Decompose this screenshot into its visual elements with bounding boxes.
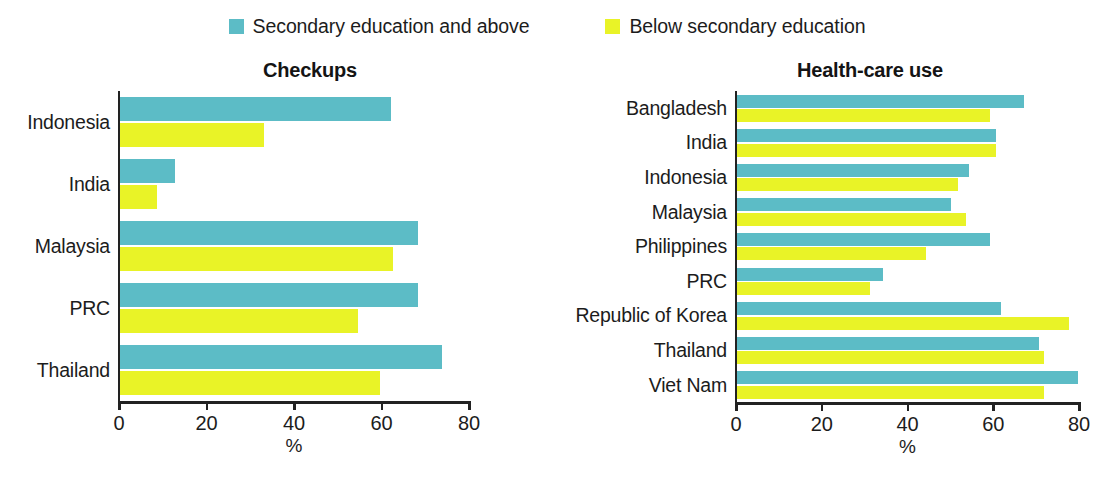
x-axis-tick: [1078, 402, 1081, 411]
bar-group: [737, 129, 1080, 157]
bar-secondary-and-above: [737, 95, 1024, 108]
chart-title-checkups: Checkups: [100, 55, 520, 85]
x-axis-tick: [468, 401, 471, 410]
bar-row: PRC: [737, 264, 1080, 299]
bar-below-secondary: [737, 213, 966, 226]
bar-rows: BangladeshIndiaIndonesiaMalaysiaPhilippi…: [735, 91, 1080, 402]
category-label: Thailand: [0, 359, 110, 382]
x-axis-tick: [206, 401, 209, 410]
bar-row: PRC: [120, 277, 470, 339]
x-axis-tick: [907, 402, 910, 411]
bar-below-secondary: [737, 282, 870, 295]
category-label: Philippines: [552, 235, 727, 258]
x-axis-tick-label: 40: [896, 413, 918, 436]
plot-area-healthcare: BangladeshIndiaIndonesiaMalaysiaPhilippi…: [560, 91, 1094, 436]
x-axis-unit-label: %: [899, 436, 916, 458]
bar-secondary-and-above: [120, 283, 418, 307]
x-axis-tick: [992, 402, 995, 411]
x-axis: 020406080%: [735, 402, 1078, 436]
bar-row: Indonesia: [737, 160, 1080, 195]
x-axis-tick: [118, 401, 121, 410]
bar-group: [737, 371, 1080, 399]
category-label: Indonesia: [0, 111, 110, 134]
legend-entry-secondary-and-above: Secondary education and above: [229, 15, 530, 38]
bar-secondary-and-above: [737, 129, 996, 142]
bar-row: Bangladesh: [737, 91, 1080, 126]
category-label: Bangladesh: [552, 97, 727, 120]
bar-row: Thailand: [120, 339, 470, 401]
bar-below-secondary: [120, 123, 264, 147]
x-axis-tick: [381, 401, 384, 410]
bar-group: [120, 345, 470, 395]
x-axis-tick: [821, 402, 824, 411]
chart-title-healthcare: Health-care use: [660, 55, 1080, 85]
bar-row: India: [737, 126, 1080, 161]
bar-row: Indonesia: [120, 91, 470, 153]
bar-group: [120, 221, 470, 271]
chart-panel-checkups: Checkups IndonesiaIndiaMalaysiaPRCThaila…: [0, 55, 520, 435]
bar-secondary-and-above: [120, 221, 418, 245]
x-axis-tick: [735, 402, 738, 411]
x-axis-tick-label: 60: [982, 413, 1004, 436]
category-label: Indonesia: [552, 166, 727, 189]
category-label: Viet Nam: [552, 374, 727, 397]
bar-below-secondary: [120, 247, 393, 271]
category-label: Republic of Korea: [552, 304, 727, 327]
bar-secondary-and-above: [737, 337, 1039, 350]
category-label: India: [552, 131, 727, 154]
bar-group: [120, 97, 470, 147]
bar-row: Philippines: [737, 229, 1080, 264]
bar-row: Malaysia: [737, 195, 1080, 230]
category-label: PRC: [552, 270, 727, 293]
bar-group: [737, 302, 1080, 330]
bar-secondary-and-above: [737, 268, 883, 281]
legend-entry-below-secondary: Below secondary education: [605, 15, 865, 38]
bar-below-secondary: [737, 178, 958, 191]
category-label: India: [0, 173, 110, 196]
x-axis-tick-label: 60: [370, 412, 392, 435]
x-axis-tick-label: 0: [113, 412, 124, 435]
x-axis-unit-label: %: [286, 435, 303, 457]
bar-row: Thailand: [737, 333, 1080, 368]
bar-below-secondary: [737, 109, 990, 122]
bar-group: [737, 164, 1080, 192]
bar-below-secondary: [120, 371, 380, 395]
bar-secondary-and-above: [737, 233, 990, 246]
bar-group: [737, 337, 1080, 365]
bar-group: [737, 95, 1080, 123]
bar-secondary-and-above: [737, 371, 1078, 384]
bar-row: India: [120, 153, 470, 215]
bar-below-secondary: [737, 144, 996, 157]
x-axis-tick-label: 80: [458, 412, 480, 435]
legend-swatch-below-secondary: [605, 19, 620, 34]
x-axis-tick-label: 0: [730, 413, 741, 436]
bar-secondary-and-above: [120, 159, 175, 183]
x-axis: 020406080%: [118, 401, 468, 435]
chart-legend: Secondary education and above Below seco…: [0, 8, 1094, 44]
bar-group: [120, 283, 470, 333]
x-axis-tick-label: 40: [283, 412, 305, 435]
bar-group: [120, 159, 470, 209]
x-axis-tick-label: 20: [195, 412, 217, 435]
bar-group: [737, 268, 1080, 296]
x-axis-tick-label: 20: [811, 413, 833, 436]
bar-row: Republic of Korea: [737, 299, 1080, 334]
plot-area-checkups: IndonesiaIndiaMalaysiaPRCThailand0204060…: [0, 91, 520, 435]
category-label: PRC: [0, 297, 110, 320]
x-axis-tick-label: 80: [1068, 413, 1090, 436]
bar-below-secondary: [737, 317, 1069, 330]
bar-below-secondary: [737, 386, 1044, 399]
bar-rows: IndonesiaIndiaMalaysiaPRCThailand: [118, 91, 470, 401]
legend-label-secondary-and-above: Secondary education and above: [253, 15, 530, 38]
bar-row: Malaysia: [120, 215, 470, 277]
x-axis-tick: [293, 401, 296, 410]
bar-secondary-and-above: [120, 345, 442, 369]
bar-row: Viet Nam: [737, 368, 1080, 403]
bar-below-secondary: [737, 351, 1044, 364]
legend-swatch-secondary-and-above: [229, 19, 244, 34]
bar-secondary-and-above: [120, 97, 391, 121]
bar-secondary-and-above: [737, 164, 969, 177]
bar-below-secondary: [120, 185, 157, 209]
legend-label-below-secondary: Below secondary education: [629, 15, 865, 38]
category-label: Malaysia: [552, 201, 727, 224]
